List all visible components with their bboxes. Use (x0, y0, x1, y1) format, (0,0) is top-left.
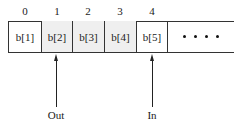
array-bottom-border (8, 52, 234, 53)
index-label-1: 1 (41, 5, 73, 17)
out-pointer-arrow (56, 59, 57, 107)
index-label-2: 2 (72, 5, 104, 17)
array-cell-4: b[5] (136, 21, 168, 52)
dot-icon (205, 35, 208, 38)
dot-icon (216, 35, 219, 38)
index-label-3: 3 (104, 5, 136, 17)
array-cell-1: b[2] (41, 21, 72, 52)
cell-label: b[5] (143, 31, 161, 43)
index-label-4: 4 (136, 5, 168, 17)
index-label-0: 0 (9, 5, 41, 17)
dot-icon (194, 35, 197, 38)
array-cell-0: b[1] (8, 21, 41, 52)
dot-icon (183, 35, 186, 38)
continuation-ellipsis (168, 21, 234, 52)
cell-label: b[1] (16, 31, 34, 43)
in-pointer-arrow (152, 59, 153, 107)
array-cell-3: b[4] (104, 21, 136, 52)
out-pointer-label: Out (41, 109, 71, 121)
cell-label: b[2] (48, 31, 66, 43)
cell-label: b[3] (79, 31, 97, 43)
cell-label: b[4] (111, 31, 129, 43)
array-cell-2: b[3] (72, 21, 104, 52)
in-pointer-label: In (137, 109, 167, 121)
